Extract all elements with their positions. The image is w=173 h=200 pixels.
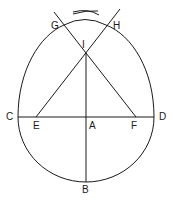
label-H: H xyxy=(113,20,120,31)
left-arc xyxy=(18,25,64,117)
line-FG xyxy=(54,12,136,117)
label-A: A xyxy=(89,120,96,131)
label-B: B xyxy=(82,184,89,195)
right-arc xyxy=(106,25,154,117)
label-I: I xyxy=(82,39,85,50)
label-F: F xyxy=(131,120,137,131)
label-D: D xyxy=(159,111,166,122)
geometric-construction-diagram: G H I C D E A F B xyxy=(0,0,173,200)
label-E: E xyxy=(33,120,40,131)
top-arc xyxy=(64,20,106,26)
line-EH xyxy=(36,9,120,117)
label-C: C xyxy=(6,111,13,122)
label-G: G xyxy=(51,20,59,31)
